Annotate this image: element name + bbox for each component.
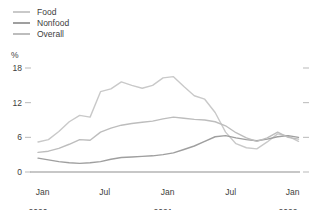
inflation-line-chart: Food Nonfood Overall % 18 12 6 0 Jan 202… <box>0 0 313 210</box>
x-tick-jan-2020: Jan 2020 <box>26 177 49 210</box>
series-line-food <box>38 77 299 149</box>
series-line-nonfood <box>38 136 299 164</box>
x-tick-jul-2020: Jul <box>90 177 110 207</box>
x-tick-jan-2021: Jan 2021 <box>151 177 174 210</box>
x-tick-jul-2021: Jul <box>216 177 236 207</box>
x-tick-jan-2022: Jan 2022 <box>276 177 299 210</box>
